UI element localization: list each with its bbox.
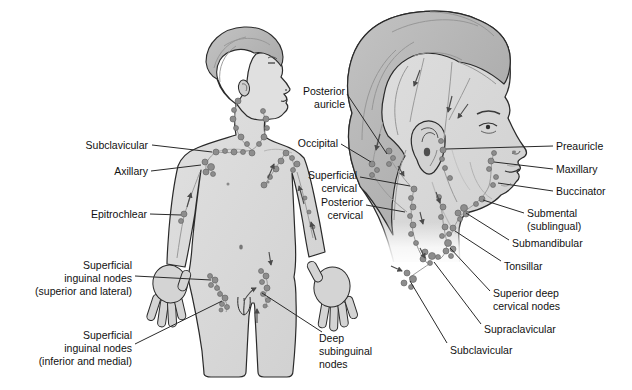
leader-submental — [483, 200, 524, 213]
label-preauricle: Preauricle — [556, 140, 603, 153]
label-posterior-auricle: Posterior auricle — [303, 85, 345, 111]
label-tonsillar: Tonsillar — [504, 260, 543, 273]
label-maxillary: Maxillary — [556, 163, 597, 176]
label-superficial-inguinal-superior: Superficial inguinal nodes (superior and… — [35, 259, 132, 298]
label-subclavicular-body: Subclavicular — [86, 139, 148, 152]
label-submandibular: Submandibular — [512, 237, 583, 250]
label-deep-subinguinal: Deep subinguinal nodes — [319, 332, 372, 371]
child-left-hand — [146, 262, 192, 328]
label-posterior-cervical: Posterior cervical — [321, 196, 363, 222]
head-ear-canal — [424, 148, 430, 156]
label-submental: Submental (sublingual) — [527, 207, 581, 233]
child-right-hand — [306, 260, 359, 331]
label-axillary: Axillary — [114, 165, 148, 178]
label-superficial-inguinal-inferior: Superficial inguinal nodes (inferior and… — [39, 329, 132, 368]
child-navel — [239, 245, 243, 250]
label-superficial-cervical: Superficial cervical — [308, 169, 357, 195]
label-subclavicular-head: Subclavicular — [450, 344, 512, 357]
child-nipple-left — [227, 183, 230, 186]
lymph-node-diagram: Subclavicular Axillary Epitrochlear Supe… — [0, 0, 632, 390]
label-buccinator: Buccinator — [556, 185, 606, 198]
label-superior-deep-cervical: Superior deep cervical nodes — [493, 287, 560, 313]
label-supraclavicular: Supraclavicular — [484, 323, 556, 336]
figure-head-neck — [348, 11, 549, 296]
label-occipital: Occipital — [298, 137, 338, 150]
label-epitrochlear: Epitrochlear — [91, 208, 147, 221]
